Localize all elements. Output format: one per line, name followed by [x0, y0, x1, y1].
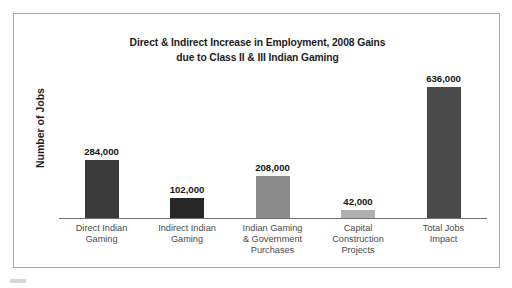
bar-slot-2: 208,000: [230, 74, 315, 219]
x-label-capital-construction-projects: CapitalConstructionProjects: [316, 223, 401, 257]
x-label-direct-indian-gaming: Direct IndianGaming: [59, 223, 144, 245]
bar-chart-figure: Direct & Indirect Increase in Employment…: [14, 14, 501, 269]
bar-indirect-indian-gaming[interactable]: [170, 198, 204, 219]
x-axis-labels: Direct IndianGaming Indirect IndianGamin…: [59, 223, 486, 269]
bar-value-4: 636,000: [401, 73, 486, 84]
chart-title-line-1: Direct & Indirect Increase in Employment…: [130, 37, 386, 48]
bar-total-jobs-impact[interactable]: [427, 87, 461, 219]
bar-slot-1: 102,000: [145, 74, 230, 219]
x-label-indian-gaming-government-purchases: Indian Gaming& GovernmentPurchases: [230, 223, 315, 257]
bar-value-1: 102,000: [145, 184, 230, 195]
bar-indian-gaming-government-purchases[interactable]: [256, 176, 290, 219]
x-axis-line: [59, 218, 487, 219]
bar-value-3: 42,000: [316, 196, 401, 207]
bar-slot-0: 284,000: [59, 74, 144, 219]
bar-slot-3: 42,000: [316, 74, 401, 219]
bar-slot-4: 636,000: [401, 74, 486, 219]
chart-title: Direct & Indirect Increase in Employment…: [44, 36, 471, 65]
bar-value-0: 284,000: [59, 146, 144, 157]
bar-direct-indian-gaming[interactable]: [85, 160, 119, 219]
page: Direct & Indirect Increase in Employment…: [0, 0, 512, 288]
plot-area: 284,000 102,000 208,000 42,000 636,000: [59, 74, 486, 219]
scan-artifact: [10, 279, 26, 283]
bar-value-2: 208,000: [230, 162, 315, 173]
y-axis-label: Number of Jobs: [34, 78, 46, 178]
x-label-total-jobs-impact: Total JobsImpact: [401, 223, 486, 245]
x-label-indirect-indian-gaming: Indirect IndianGaming: [145, 223, 230, 245]
page-frame: Direct & Indirect Increase in Employment…: [13, 13, 500, 268]
chart-title-line-2: due to Class II & III Indian Gaming: [44, 51, 471, 66]
